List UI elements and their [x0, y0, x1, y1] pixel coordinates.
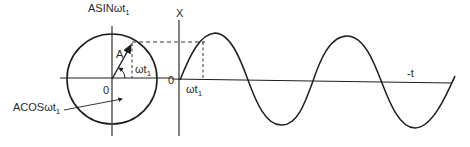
- angle-label-sub: 1: [147, 69, 151, 78]
- acos-label: ACOSωt1: [13, 102, 60, 116]
- phasor-group: [60, 26, 205, 136]
- phasor-sine-diagram: ASINωt1 A ωt1 0 ACOSωt1 X 0 ωt1 -t: [0, 0, 470, 147]
- angle-label-text: ωt: [135, 63, 147, 75]
- asin-label-sub: 1: [125, 8, 129, 17]
- angle-label: ωt1: [135, 64, 151, 78]
- x-axis-label: X: [176, 8, 183, 19]
- angle-arc: [119, 68, 125, 78]
- time-marker-label: ωt1: [186, 84, 202, 98]
- asin-label: ASINωt1: [88, 3, 130, 17]
- acos-label-sub: 1: [56, 107, 60, 116]
- phasor-origin-label: 0: [103, 85, 109, 96]
- time-marker-label-text: ωt: [186, 83, 198, 95]
- diagram-graphics: [0, 0, 470, 147]
- t-axis-label: -t: [407, 68, 414, 79]
- asin-label-text: ASINωt: [88, 2, 125, 14]
- sine-wave-curve: [180, 33, 455, 128]
- time-marker-label-sub: 1: [198, 89, 202, 98]
- vector-a-label: A: [116, 49, 123, 60]
- acos-label-text: ACOSωt: [13, 101, 56, 113]
- waveform-origin-label: 0: [168, 75, 174, 86]
